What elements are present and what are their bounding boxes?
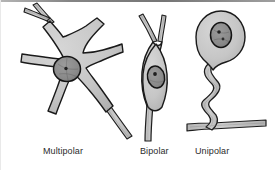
neuron-bipolar xyxy=(139,14,167,141)
unipolar-axon-horizontal xyxy=(187,120,266,131)
neuron-multipolar xyxy=(21,3,132,139)
unipolar-process-inner-lines xyxy=(190,66,264,128)
unipolar-nucleolus-secondary xyxy=(222,38,225,41)
neuron-unipolar xyxy=(187,11,266,131)
multipolar-nucleolus xyxy=(64,67,67,70)
unipolar-nucleolus xyxy=(217,30,221,34)
unipolar-nucleus xyxy=(211,23,232,48)
bipolar-dendrite-fork-left xyxy=(139,14,157,42)
neuron-types-figure xyxy=(0,0,275,170)
unipolar-wavy-process xyxy=(202,64,220,130)
bipolar-nucleolus xyxy=(153,72,157,76)
